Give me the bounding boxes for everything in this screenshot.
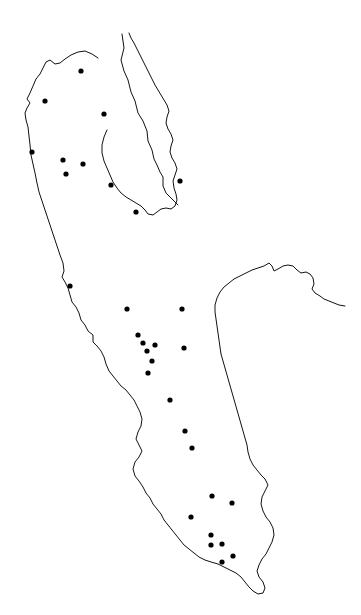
map-point-marker <box>219 559 224 564</box>
map-point-marker <box>108 182 113 187</box>
map-point-marker <box>181 345 186 350</box>
map-point-marker <box>149 358 154 363</box>
map-point-marker <box>78 68 83 73</box>
map-point-marker <box>124 306 129 311</box>
map-point-marker <box>80 161 85 166</box>
map-point-marker <box>177 178 182 183</box>
map-point-marker <box>188 514 193 519</box>
map-point-marker <box>101 111 106 116</box>
map-point-marker <box>145 370 150 375</box>
map-point-marker <box>189 445 194 450</box>
map-point-marker <box>167 397 172 402</box>
map-point-marker <box>29 149 34 154</box>
map-point-marker <box>182 428 187 433</box>
map-point-marker <box>67 283 72 288</box>
map-point-marker <box>60 157 65 162</box>
map-point-marker <box>219 541 224 546</box>
map-point-marker <box>144 348 149 353</box>
map-canvas <box>0 0 361 615</box>
map-point-marker <box>133 209 138 214</box>
point-distribution-map <box>0 0 361 615</box>
map-point-marker <box>135 332 140 337</box>
map-point-marker <box>230 553 235 558</box>
map-point-marker <box>152 342 157 347</box>
map-point-marker <box>179 306 184 311</box>
map-point-marker <box>42 98 47 103</box>
map-point-marker <box>229 500 234 505</box>
map-point-marker <box>209 493 214 498</box>
map-point-marker <box>63 171 68 176</box>
map-point-marker <box>208 542 213 547</box>
map-point-marker <box>208 532 213 537</box>
map-point-marker <box>140 340 145 345</box>
